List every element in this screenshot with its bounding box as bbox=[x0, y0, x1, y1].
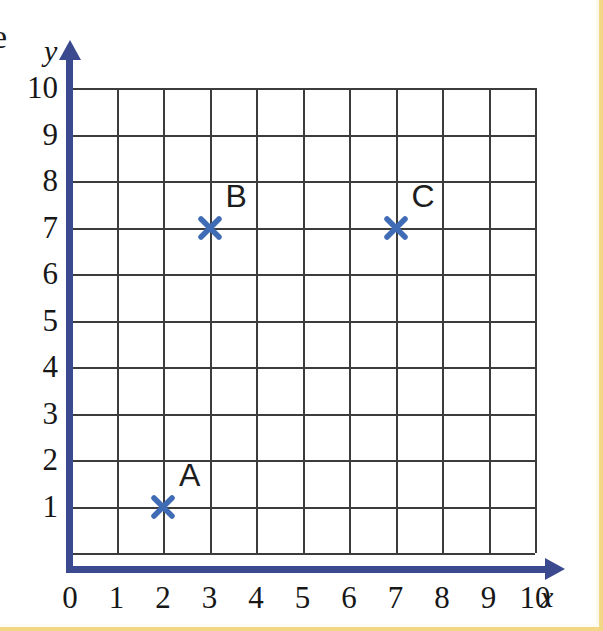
y-tick-label: 8 bbox=[10, 165, 58, 196]
point-marker-b bbox=[195, 213, 225, 243]
x-axis-line bbox=[66, 566, 549, 573]
y-tick-label: 4 bbox=[10, 351, 58, 382]
x-tick-label: 10 bbox=[505, 582, 565, 613]
point-label-b: B bbox=[226, 180, 247, 212]
worksheet-page: e y x 12345678910 012345678910 ABC bbox=[0, 0, 603, 631]
grid-line-horizontal bbox=[70, 460, 535, 462]
grid-line-vertical bbox=[489, 88, 491, 553]
grid-line-vertical bbox=[442, 88, 444, 553]
point-marker-a bbox=[148, 492, 178, 522]
point-label-a: A bbox=[179, 459, 200, 491]
grid-line-horizontal bbox=[70, 507, 535, 509]
y-tick-label: 3 bbox=[10, 398, 58, 429]
page-frame-bottom bbox=[0, 627, 603, 631]
y-axis-label: y bbox=[44, 36, 57, 66]
y-axis-arrow-icon bbox=[59, 40, 81, 60]
y-tick-label: 5 bbox=[10, 305, 58, 336]
y-tick-label: 6 bbox=[10, 258, 58, 289]
point-label-c: C bbox=[412, 180, 435, 212]
grid-line-vertical bbox=[396, 88, 398, 553]
y-tick-label: 9 bbox=[10, 119, 58, 150]
y-tick-label: 2 bbox=[10, 444, 58, 475]
coordinate-grid-figure: y x 12345678910 012345678910 ABC bbox=[0, 0, 603, 631]
grid-line-vertical bbox=[349, 88, 351, 553]
grid-line-horizontal bbox=[70, 414, 535, 416]
y-axis-line bbox=[66, 56, 73, 571]
y-tick-label: 10 bbox=[10, 72, 58, 103]
y-tick-label: 1 bbox=[10, 491, 58, 522]
grid-line-horizontal bbox=[70, 553, 535, 555]
grid-lines bbox=[70, 88, 535, 553]
grid-line-horizontal bbox=[70, 321, 535, 323]
point-marker-c bbox=[381, 213, 411, 243]
y-tick-label: 7 bbox=[10, 212, 58, 243]
x-axis-arrow-icon bbox=[545, 558, 565, 580]
page-frame-right bbox=[599, 0, 603, 631]
grid-line-vertical bbox=[535, 88, 537, 553]
grid-line-horizontal bbox=[70, 367, 535, 369]
